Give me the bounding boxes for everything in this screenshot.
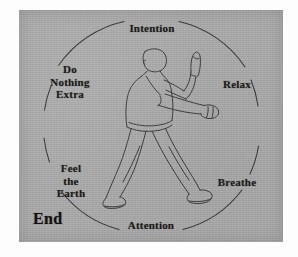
figure-fist-knuckles <box>207 107 209 118</box>
figure-arm-raised <box>164 80 184 91</box>
figure-leg-front-crease <box>169 147 189 180</box>
cycle-label-feel-the-earth: Feel the Earth <box>40 162 102 200</box>
cycle-label-attention: Attention <box>99 219 203 231</box>
figure-arm-extended-bottom <box>158 105 201 114</box>
figure-jacket-lapel <box>146 76 161 95</box>
figure-root: Intention Relax Breathe Attention Feel t… <box>0 0 298 257</box>
figure-leg-rear-front <box>120 131 146 197</box>
figure-hand-fingers <box>194 57 200 59</box>
cycle-diagram <box>19 10 283 242</box>
figure-fist <box>201 105 219 119</box>
figure-leg-front-front <box>166 130 200 191</box>
cycle-label-relax: Relax <box>204 78 270 90</box>
figure-ear <box>144 60 146 65</box>
figure-forearm-raised-2 <box>186 78 196 99</box>
figure-arm-extended-top <box>165 94 204 106</box>
figure-hand-vertical <box>191 52 201 78</box>
figure-leg-rear-back <box>106 129 131 198</box>
figure-jacket-front <box>164 77 172 92</box>
figure-fist-knuckles-2 <box>212 107 213 118</box>
cycle-end-marker: End <box>33 210 99 228</box>
cycle-label-breathe: Breathe <box>199 176 275 188</box>
figure-torso-back <box>126 78 140 128</box>
figure-head <box>143 49 166 72</box>
figure-forearm-raised <box>184 72 191 91</box>
figure-wrist-crease <box>191 74 197 76</box>
arc-left-lower <box>44 138 50 162</box>
arc-right-lower <box>250 146 259 174</box>
diagram-paper-panel: Intention Relax Breathe Attention Feel t… <box>19 10 283 242</box>
figure-collar-2 <box>160 71 164 77</box>
figure-belt <box>129 121 172 126</box>
figure-shoulder-crease <box>158 96 161 106</box>
cycle-label-do-nothing-extra: Do Nothing Extra <box>33 63 107 101</box>
cycle-label-intention: Intention <box>102 22 202 34</box>
